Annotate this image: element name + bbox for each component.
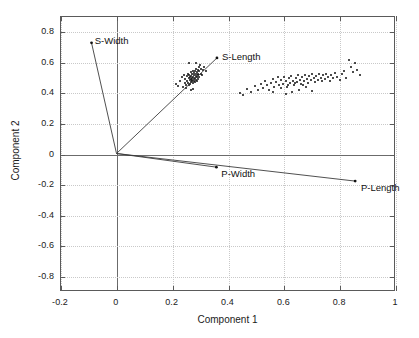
x-tick-label: 0.2 xyxy=(165,297,178,307)
x-tick-label: 0.6 xyxy=(277,297,290,307)
x-axis-tick xyxy=(396,286,397,291)
y-tick-label: -0.6 xyxy=(20,240,54,250)
y-tick-label: -0.8 xyxy=(20,271,54,281)
y-tick-label: -0.4 xyxy=(20,210,54,220)
x-axis-label: Component 1 xyxy=(60,314,395,325)
loading-vector-s-width xyxy=(92,43,117,154)
x-tick-label: 0.4 xyxy=(221,297,234,307)
x-tick-label: 0 xyxy=(113,297,118,307)
x-tick-label: 1 xyxy=(392,297,397,307)
x-tick-label: -0.2 xyxy=(52,297,68,307)
x-axis-tick xyxy=(396,16,397,21)
vector-tip-marker xyxy=(90,41,93,44)
y-tick-label: 0.4 xyxy=(20,87,54,97)
vector-label-p-length: P-Length xyxy=(361,182,400,193)
vector-tip-marker xyxy=(216,57,219,60)
vector-tip-marker xyxy=(354,180,357,183)
y-axis-label: Component 2 xyxy=(10,103,21,199)
gridline-vertical xyxy=(396,17,397,290)
y-tick-label: 0.8 xyxy=(20,26,54,36)
y-tick-label: 0.2 xyxy=(20,118,54,128)
loading-vector-s-length xyxy=(117,58,217,154)
y-tick-label: -0.2 xyxy=(20,179,54,189)
x-tick-label: 0.8 xyxy=(333,297,346,307)
vector-label-s-length: S-Length xyxy=(222,51,261,62)
vector-label-p-width: P-Width xyxy=(221,168,255,179)
vector-label-s-width: S-Width xyxy=(95,35,129,46)
pca-biplot-figure: Component 2 Component 1 -0.200.20.40.60.… xyxy=(0,0,419,338)
vector-tip-marker xyxy=(215,166,218,169)
y-tick-label: 0.6 xyxy=(20,57,54,67)
y-tick-label: 0 xyxy=(20,149,54,159)
